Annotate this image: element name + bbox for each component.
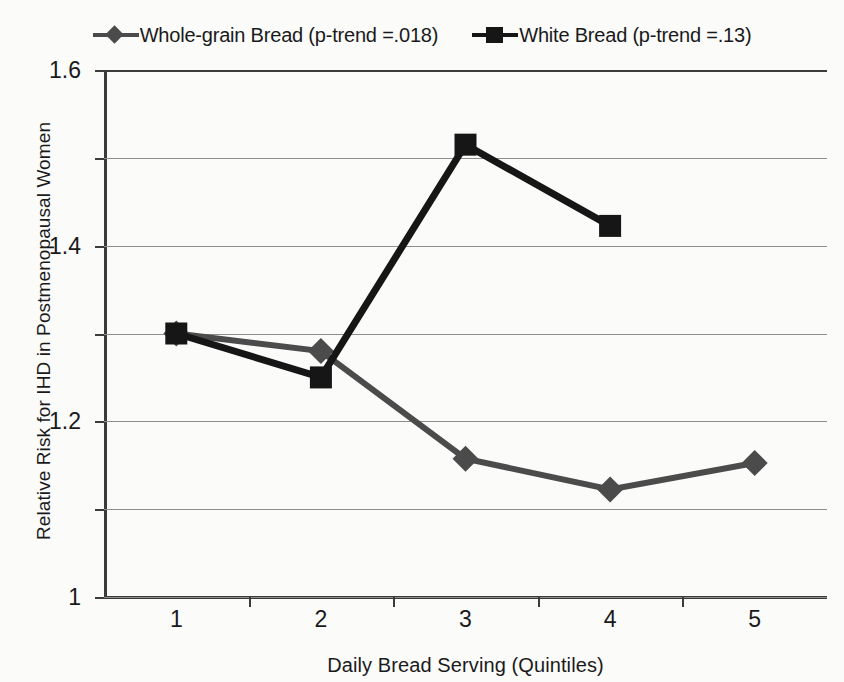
x-axis-tick-label: 4 <box>604 608 617 631</box>
x-axis-tick-label: 5 <box>748 608 761 631</box>
y-axis-tick: 1.6 <box>95 70 104 72</box>
x-axis-tick-label: 2 <box>314 608 327 631</box>
square-marker-icon <box>165 323 187 345</box>
x-axis-tick-label: 3 <box>459 608 472 631</box>
gridline <box>104 597 827 598</box>
x-axis-title: Daily Bread Serving (Quintiles) <box>104 654 827 677</box>
y-axis-tick-label: 1.6 <box>49 59 81 82</box>
chart-legend: Whole-grain Bread (p-trend =.018) White … <box>0 18 844 52</box>
x-axis-tick <box>393 597 395 607</box>
y-axis-tick-label: 1.4 <box>49 234 81 257</box>
legend-entry-white-bread: White Bread (p-trend =.13) <box>472 25 751 45</box>
plot-area: 1.61.41.210.80.60.4 12345 Daily Bread Se… <box>104 70 827 597</box>
diamond-marker-icon <box>597 476 623 502</box>
legend-label-white-bread: White Bread (p-trend =.13) <box>518 25 751 45</box>
y-axis-title: Relative Risk for IHD in Postmenopausal … <box>33 51 55 611</box>
diamond-marker-icon <box>93 25 139 45</box>
legend-entry-whole-grain: Whole-grain Bread (p-trend =.018) <box>93 25 439 45</box>
x-axis-tick <box>538 597 540 607</box>
y-axis-tick: 0.6 <box>95 509 104 511</box>
x-axis-tick-label: 1 <box>170 608 183 631</box>
y-axis-tick: 0.8 <box>95 421 104 423</box>
legend-label-whole-grain: Whole-grain Bread (p-trend =.018) <box>139 25 439 45</box>
square-marker-icon <box>455 134 477 156</box>
x-axis-tick <box>249 597 251 607</box>
chart-page: Whole-grain Bread (p-trend =.018) White … <box>0 0 844 682</box>
square-marker-icon <box>310 366 332 388</box>
square-marker-icon <box>599 215 621 237</box>
series-plot <box>104 70 827 597</box>
y-axis-tick: 0.4 <box>95 597 104 599</box>
y-axis-tick: 1 <box>95 334 104 336</box>
y-axis-tick-label: 1 <box>68 586 81 609</box>
y-axis-tick-label: 1.2 <box>49 410 81 433</box>
y-axis-tick: 1.4 <box>95 158 104 160</box>
square-marker-icon <box>472 25 518 45</box>
y-axis-tick: 1.2 <box>95 246 104 248</box>
diamond-marker-icon <box>742 450 768 476</box>
x-axis-tick <box>682 597 684 607</box>
